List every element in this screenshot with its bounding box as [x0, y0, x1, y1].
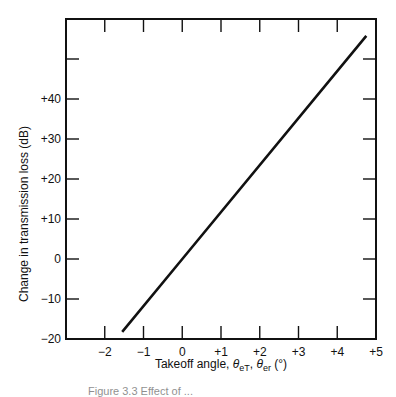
y-tick-labels: −20−100+10+20+30+40	[41, 92, 62, 346]
x-tick-label: −1	[137, 345, 151, 359]
y-tick-label: −10	[41, 292, 62, 306]
y-tick-label: +40	[41, 92, 62, 106]
x-tick-labels: −2−10+1+2+3+4+5	[98, 345, 383, 359]
x-tick-label: +3	[292, 345, 306, 359]
y-tick-label: 0	[54, 252, 61, 266]
y-axis-label: Change in transmission loss (dB)	[17, 126, 31, 302]
y-tick-label: +30	[41, 132, 62, 146]
data-line	[122, 36, 366, 332]
y-tick-label: +10	[41, 212, 62, 226]
axis-ticks	[66, 19, 376, 339]
figure-caption: Figure 3.3 Effect of ...	[88, 385, 193, 397]
y-tick-label: +20	[41, 172, 62, 186]
plot-frame	[66, 19, 376, 339]
x-tick-label: +5	[369, 345, 383, 359]
x-axis-label: Takeoff angle, θeT, θer (°)	[155, 357, 287, 373]
y-tick-label: −20	[41, 332, 62, 346]
x-tick-label: +4	[330, 345, 344, 359]
x-tick-label: −2	[98, 345, 112, 359]
